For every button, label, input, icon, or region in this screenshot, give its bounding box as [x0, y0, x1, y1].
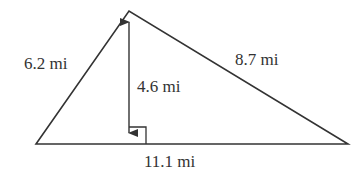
triangle-diagram: 6.2 mi 8.7 mi 4.6 mi 11.1 mi — [0, 0, 363, 180]
height-label: 4.6 mi — [137, 77, 181, 96]
left-side-label: 6.2 mi — [24, 54, 68, 73]
right-angle-mark — [129, 127, 146, 144]
base-label: 11.1 mi — [144, 152, 196, 171]
triangle-outline — [36, 11, 348, 144]
right-side-label: 8.7 mi — [235, 50, 279, 69]
